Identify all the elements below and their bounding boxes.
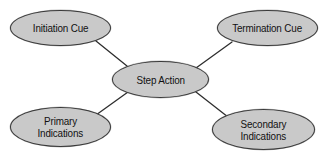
edge-step-to-termination xyxy=(196,42,232,68)
node-termination-cue-label: Termination Cue xyxy=(233,22,303,34)
node-step-action[interactable]: Step Action xyxy=(112,61,209,98)
node-primary-indications-label-line2: Indications xyxy=(38,127,84,139)
edge-primary-to-step xyxy=(96,92,128,115)
node-secondary-indications-label-line2: Indications xyxy=(241,130,287,142)
node-secondary-indications[interactable]: Secondary Indications xyxy=(212,109,315,150)
node-initiation-cue-label: Initiation Cue xyxy=(33,22,89,34)
node-initiation-cue[interactable]: Initiation Cue xyxy=(10,10,111,46)
edge-initiation-to-step xyxy=(96,41,127,66)
node-step-action-label: Step Action xyxy=(136,74,184,86)
node-termination-cue[interactable]: Termination Cue xyxy=(217,10,318,46)
edge-step-to-secondary xyxy=(196,92,228,117)
diagram-canvas: Initiation Cue Termination Cue Step Acti… xyxy=(0,0,321,156)
node-primary-indications[interactable]: Primary Indications xyxy=(10,107,111,147)
node-secondary-indications-label-line1: Secondary xyxy=(241,118,287,130)
node-primary-indications-label-line1: Primary xyxy=(44,115,77,127)
